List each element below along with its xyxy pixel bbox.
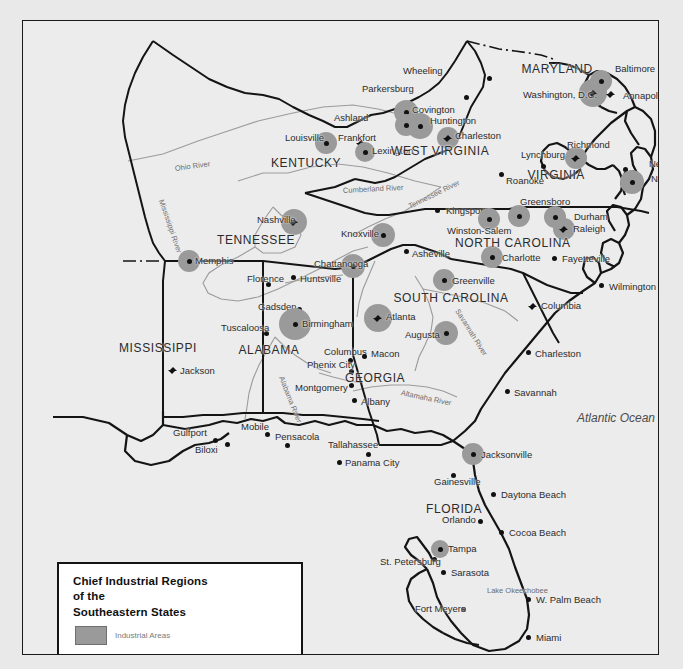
- city-dot-marker: [264, 331, 269, 336]
- legend-title-line: Chief Industrial Regions: [73, 574, 208, 589]
- city-dot-marker: [478, 519, 483, 524]
- map-legend: Chief Industrial Regionsof theSoutheaste…: [57, 562, 303, 655]
- city-dot-marker: [266, 282, 271, 287]
- legend-industrial-label: Industrial Areas: [115, 631, 170, 640]
- legend-title-line: Southeastern States: [73, 605, 208, 620]
- map-root: WheelingParkersburgCovingtonHuntingtonAs…: [0, 0, 683, 669]
- city-dot-marker: [381, 233, 386, 238]
- city-dot-marker: [491, 492, 496, 497]
- city-dot-marker: [349, 369, 354, 374]
- city-dot-marker: [490, 255, 495, 260]
- city-dot-marker: [487, 217, 492, 222]
- capital-star-marker: [444, 135, 452, 139]
- city-dot-marker: [526, 635, 531, 640]
- city-dot-marker: [599, 79, 604, 84]
- city-dot-marker: [432, 557, 437, 562]
- city-dot-marker: [552, 256, 557, 261]
- map-geography-svg: [23, 21, 657, 653]
- capital-star-marker: [169, 367, 177, 371]
- city-dot-marker: [349, 383, 354, 388]
- city-dot-marker: [461, 607, 466, 612]
- city-dot-marker: [464, 95, 469, 100]
- city-dot-marker: [348, 358, 353, 363]
- city-dot-marker: [366, 452, 371, 457]
- city-dot-marker: [471, 452, 476, 457]
- legend-title: Chief Industrial Regionsof theSoutheaste…: [73, 574, 208, 620]
- city-dot-marker: [187, 259, 192, 264]
- city-dot-marker: [499, 172, 504, 177]
- city-dot-marker: [213, 438, 218, 443]
- city-dot-marker: [293, 322, 298, 327]
- capital-star-marker: [572, 155, 580, 159]
- city-dot-marker: [487, 76, 492, 81]
- capital-star-marker: [290, 219, 298, 223]
- capital-star-marker: [374, 315, 382, 319]
- city-dot-marker: [435, 208, 440, 213]
- city-dot-marker: [404, 123, 409, 128]
- city-dot-marker: [441, 570, 446, 575]
- city-dot-marker: [404, 249, 409, 254]
- city-dot-marker: [363, 150, 368, 155]
- city-dot-marker: [444, 331, 449, 336]
- city-dot-marker: [285, 443, 290, 448]
- city-dot-marker: [499, 530, 504, 535]
- city-dot-marker: [442, 278, 447, 283]
- city-dot-marker: [451, 473, 456, 478]
- city-dot-marker: [553, 215, 558, 220]
- city-dot-marker: [291, 275, 296, 280]
- city-dot-marker: [337, 460, 342, 465]
- legend-industrial-swatch: [75, 626, 107, 645]
- city-dot-marker: [526, 597, 531, 602]
- city-dot-marker: [324, 141, 329, 146]
- city-dot-marker: [541, 164, 546, 169]
- capital-star-marker: [560, 226, 568, 230]
- city-dot-marker: [362, 354, 367, 359]
- legend-title-line: of the: [73, 589, 208, 604]
- city-dot-marker: [351, 264, 356, 269]
- city-dot-marker: [517, 214, 522, 219]
- city-dot-marker: [630, 180, 635, 185]
- capital-star-marker: [529, 303, 537, 307]
- map-frame: WheelingParkersburgCovingtonHuntingtonAs…: [22, 20, 659, 655]
- city-dot-marker: [505, 389, 510, 394]
- city-dot-marker: [225, 442, 230, 447]
- city-dot-marker: [599, 283, 604, 288]
- city-dot-marker: [526, 350, 531, 355]
- capital-star-marker: [607, 91, 615, 95]
- city-dot-marker: [438, 547, 443, 552]
- city-dot-marker: [352, 398, 357, 403]
- city-dot-marker: [418, 124, 423, 129]
- city-dot-marker: [265, 432, 270, 437]
